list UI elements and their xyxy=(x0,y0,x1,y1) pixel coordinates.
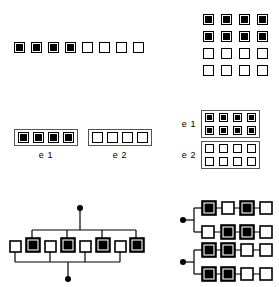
cell-filled xyxy=(65,42,76,53)
cell-filled xyxy=(233,126,242,135)
cell-empty xyxy=(219,157,228,166)
cell-empty xyxy=(221,65,232,76)
group-label-e1: e 1 xyxy=(14,150,78,160)
cell-empty xyxy=(221,48,232,59)
bus-network-svg xyxy=(10,200,150,286)
cell-filled xyxy=(31,42,42,53)
cell-empty xyxy=(45,241,56,252)
cell-filled xyxy=(239,31,250,42)
grid-row xyxy=(205,157,256,166)
cell-empty xyxy=(133,42,144,53)
grid-row xyxy=(203,31,268,42)
cell-empty xyxy=(137,132,148,143)
cell-empty xyxy=(80,241,91,252)
cell-empty xyxy=(257,48,268,59)
panel-two-boxed-row-groups: e 1 e 2 xyxy=(14,129,152,160)
cell-empty xyxy=(239,48,250,59)
grid-row xyxy=(205,144,256,153)
cell-empty xyxy=(219,144,228,153)
cell-empty xyxy=(115,241,126,252)
branch-network-svg xyxy=(180,200,276,286)
cell-filled-inner xyxy=(242,227,252,237)
cell-empty xyxy=(233,157,242,166)
cell-filled xyxy=(233,113,242,122)
cell-empty xyxy=(10,241,21,252)
cell-filled xyxy=(18,132,29,143)
cell-row xyxy=(14,42,144,53)
cell-filled xyxy=(247,126,256,135)
cell-filled xyxy=(221,14,232,25)
cell-empty xyxy=(203,48,214,59)
cell-filled xyxy=(221,31,232,42)
group-label-e2: e 2 xyxy=(178,150,196,160)
cell-filled-inner xyxy=(63,240,73,250)
cell-filled xyxy=(205,113,214,122)
cell-empty xyxy=(203,65,214,76)
group-box-e1 xyxy=(201,110,260,138)
cell-filled xyxy=(205,126,214,135)
cell-empty xyxy=(82,42,93,53)
cell-empty xyxy=(233,144,242,153)
cell-row xyxy=(92,132,148,143)
cell-empty xyxy=(107,132,118,143)
group-labels: e 1 e 2 xyxy=(14,150,152,160)
group-label-e2: e 2 xyxy=(88,150,152,160)
cell-filled xyxy=(48,132,59,143)
cell-filled xyxy=(203,31,214,42)
panel-four-by-four-grid xyxy=(203,14,268,76)
cell-empty xyxy=(260,268,272,280)
group-box-e2 xyxy=(201,141,260,169)
grid-row xyxy=(203,48,268,59)
cell-row xyxy=(18,132,74,143)
cell-filled-inner xyxy=(28,240,38,250)
group-container xyxy=(14,129,152,146)
cell-empty xyxy=(241,244,253,256)
cell-filled-inner xyxy=(204,203,214,213)
cell-empty xyxy=(247,157,256,166)
figure-root: e 1 e 2 e 1 e xyxy=(0,0,279,287)
cell-filled xyxy=(33,132,44,143)
cell-filled-inner xyxy=(223,269,233,279)
cell-empty xyxy=(122,132,133,143)
cell-empty xyxy=(247,144,256,153)
cell-filled-inner xyxy=(223,245,233,255)
cell-filled xyxy=(63,132,74,143)
cell-filled-inner xyxy=(223,227,233,237)
cell-empty xyxy=(205,157,214,166)
group-box-e1 xyxy=(14,129,78,146)
cell-filled xyxy=(239,14,250,25)
cell-empty xyxy=(222,202,234,214)
cell-empty xyxy=(260,244,272,256)
panel-two-boxed-grid-groups: e 1 e 2 xyxy=(178,110,260,169)
terminal-dot-bottom xyxy=(65,276,71,282)
grid-row xyxy=(205,126,256,135)
cell-filled xyxy=(48,42,59,53)
cell-empty xyxy=(260,226,272,238)
cell-empty xyxy=(260,202,272,214)
cell-filled xyxy=(203,14,214,25)
grid-row xyxy=(203,14,268,25)
panel-single-row-sequence xyxy=(14,42,144,53)
cell-filled-inner xyxy=(98,240,108,250)
cell-filled xyxy=(257,31,268,42)
group-e2: e 2 xyxy=(178,141,260,169)
cell-empty xyxy=(116,42,127,53)
cell-empty xyxy=(257,65,268,76)
cell-filled xyxy=(247,113,256,122)
panel-two-terminal-branch-rows xyxy=(180,200,276,286)
group-label-e1: e 1 xyxy=(178,119,196,129)
cell-filled xyxy=(219,113,228,122)
panel-bus-connected-chain xyxy=(10,200,150,286)
cell-filled-inner xyxy=(132,240,142,250)
cell-filled-inner xyxy=(204,269,214,279)
group-box-e2 xyxy=(88,129,152,146)
cell-empty xyxy=(239,65,250,76)
cell-filled xyxy=(14,42,25,53)
terminal-dot-top xyxy=(77,205,83,211)
cell-filled-inner xyxy=(242,203,252,213)
grid-row xyxy=(205,113,256,122)
grid-row xyxy=(203,65,268,76)
cell-filled xyxy=(219,126,228,135)
cell-empty xyxy=(241,268,253,280)
cell-empty xyxy=(202,226,214,238)
